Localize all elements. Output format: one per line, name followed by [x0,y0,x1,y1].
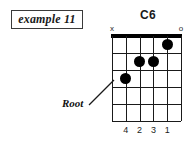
fret-line-5 [112,121,181,122]
finger-dot [148,56,159,67]
finger-dot [162,39,173,50]
open-string-marker: o [177,24,186,33]
finger-number-string-5: 1 [162,125,172,136]
string-line-4 [153,36,154,121]
muted-string-marker: x [108,24,117,33]
fret-line-3 [112,87,181,88]
finger-numbers-row: 4231 [112,125,181,137]
finger-number-string-2: 4 [121,125,131,136]
root-leader-line [88,78,120,106]
example-label-box: example 11 [11,10,83,29]
finger-dot [134,56,145,67]
fret-line-2 [112,70,181,71]
root-finger-dot [120,73,131,84]
fret-line-1 [112,53,181,54]
chord-diagram-fretboard [112,34,181,121]
string-line-6 [181,36,182,121]
fret-line-4 [112,104,181,105]
root-annotation-label: Root [62,97,83,109]
example-label-text: example 11 [18,12,76,27]
string-markers-row: xo [112,24,181,34]
finger-number-string-4: 3 [148,125,158,136]
nut-bar [111,34,182,38]
string-line-3 [140,36,141,121]
finger-number-string-3: 2 [135,125,145,136]
chord-name-title: C6 [108,8,188,22]
